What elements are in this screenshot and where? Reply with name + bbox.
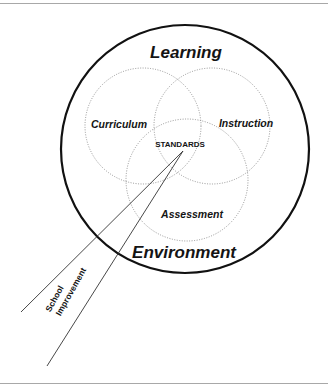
instruction-label: Instruction <box>219 117 273 129</box>
environment-label: Environment <box>132 243 237 262</box>
curriculum-label: Curriculum <box>91 118 147 130</box>
school-improvement-label: School Improvement <box>43 260 88 318</box>
learning-environment-diagram: Learning Environment Curriculum Instruct… <box>0 0 328 390</box>
assessment-label: Assessment <box>160 208 223 220</box>
assessment-circle <box>126 119 248 241</box>
learning-label: Learning <box>150 43 222 62</box>
standards-label: STANDARDS <box>155 140 205 149</box>
beam-line-upper <box>21 151 183 312</box>
